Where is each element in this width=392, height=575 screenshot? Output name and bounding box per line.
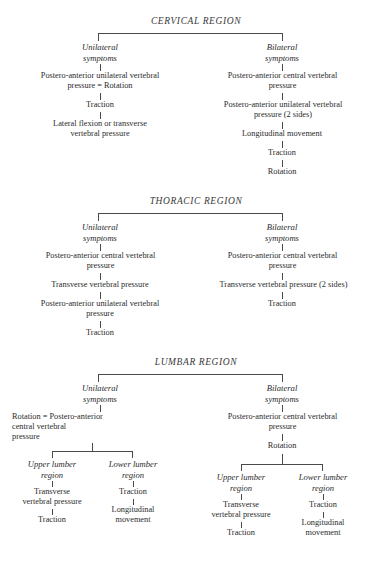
connector [282, 93, 283, 100]
lumbar-split-bracket [98, 374, 283, 382]
lumbar-unilateral-label: Unilateral symptoms [40, 383, 160, 404]
lumbar-unilateral-lower-label: Lower lumber region [85, 459, 181, 480]
cervical-bilateral-step-2: Postero-anterior unilateral vertebral pr… [188, 100, 378, 120]
thoracic-unilateral-step-1: Postero-anterior central vertebral press… [8, 251, 193, 271]
connector [282, 292, 283, 299]
connector [100, 405, 101, 412]
connector [282, 64, 283, 71]
connector [100, 93, 101, 100]
connector [100, 64, 101, 71]
connector [282, 244, 283, 251]
connector [282, 122, 283, 129]
cervical-bilateral-step-3: Longitudinal movement [202, 129, 362, 139]
thoracic-unilateral-step-3: Postero-anterior unilateral vertebral pr… [5, 299, 195, 319]
cervical-region-title: CERVICAL REGION [0, 16, 392, 26]
thoracic-bilateral-step-2: Transverse vertebral pressure (2 sides) [186, 280, 381, 290]
lumbar-bilateral-lower-step-2: Longitudinal movement [275, 518, 371, 538]
cervical-unilateral-label: Unilateral symptoms [40, 42, 160, 63]
connector [92, 443, 93, 451]
cervical-bilateral-step-4: Traction [222, 148, 342, 158]
cervical-bilateral-step-5: Rotation [222, 167, 342, 177]
connector [282, 141, 283, 148]
lumbar-bilateral-sub-bracket [241, 464, 323, 471]
connector [282, 454, 283, 464]
lumbar-unilateral-step-1: Rotation = Postero-anterior central vert… [12, 412, 192, 443]
connector [100, 321, 101, 328]
flowchart-page: CERVICAL REGION Unilateral symptoms Post… [0, 0, 392, 575]
cervical-unilateral-step-2: Traction [30, 100, 170, 110]
thoracic-unilateral-label: Unilateral symptoms [40, 222, 160, 243]
thoracic-region-title: THORACIC REGION [0, 196, 392, 206]
lumbar-bilateral-step-2: Rotation [222, 441, 342, 451]
thoracic-unilateral-step-4: Traction [40, 328, 160, 338]
lumbar-bilateral-lower-label: Lower lumber region [275, 472, 371, 493]
cervical-unilateral-step-3: Lateral flexion or transverse vertebral … [10, 119, 190, 139]
connector [100, 244, 101, 251]
thoracic-unilateral-step-2: Transverse vertebral pressure [10, 280, 190, 290]
lumbar-unilateral-lower-step-1: Traction [85, 487, 181, 497]
cervical-unilateral-step-1: Postero-anterior unilateral vertebral pr… [5, 71, 195, 91]
lumbar-bilateral-step-1: Postero-anterior central vertebral press… [190, 412, 375, 432]
connector [282, 273, 283, 280]
cervical-bilateral-label: Bilateral symptoms [222, 42, 342, 63]
thoracic-bilateral-label: Bilateral symptoms [222, 222, 342, 243]
cervical-bilateral-step-1: Postero-anterior central vertebral press… [190, 71, 375, 91]
lumbar-region-title: LUMBAR REGION [0, 357, 392, 367]
lumbar-bilateral-lower-step-1: Traction [275, 500, 371, 510]
connector [100, 273, 101, 280]
connector [100, 292, 101, 299]
lumbar-unilateral-lower-step-2: Longitudinal movement [85, 505, 181, 525]
cervical-split-bracket [98, 33, 283, 41]
lumbar-unilateral-sub-bracket [52, 451, 133, 458]
thoracic-bilateral-step-3: Traction [222, 299, 342, 309]
thoracic-split-bracket [98, 213, 283, 221]
connector [282, 434, 283, 441]
connector [282, 405, 283, 412]
thoracic-bilateral-step-1: Postero-anterior central vertebral press… [190, 251, 375, 271]
connector [100, 112, 101, 119]
lumbar-bilateral-label: Bilateral symptoms [222, 383, 342, 404]
connector [282, 160, 283, 167]
